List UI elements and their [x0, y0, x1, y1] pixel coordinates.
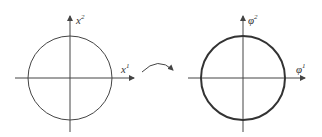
curved-arrow-icon [142, 63, 173, 72]
right-x-axis-label: φ1 [296, 62, 306, 75]
left-plane: x2 x1 [15, 13, 134, 132]
left-x-axis-label: x1 [120, 62, 129, 75]
right-y-axis-label: φ2 [248, 13, 258, 26]
right-plane: φ2 φ1 [188, 13, 306, 132]
coordinate-map-diagram: x2 x1 φ2 φ1 [0, 0, 322, 137]
left-y-axis-label: x2 [75, 13, 85, 26]
